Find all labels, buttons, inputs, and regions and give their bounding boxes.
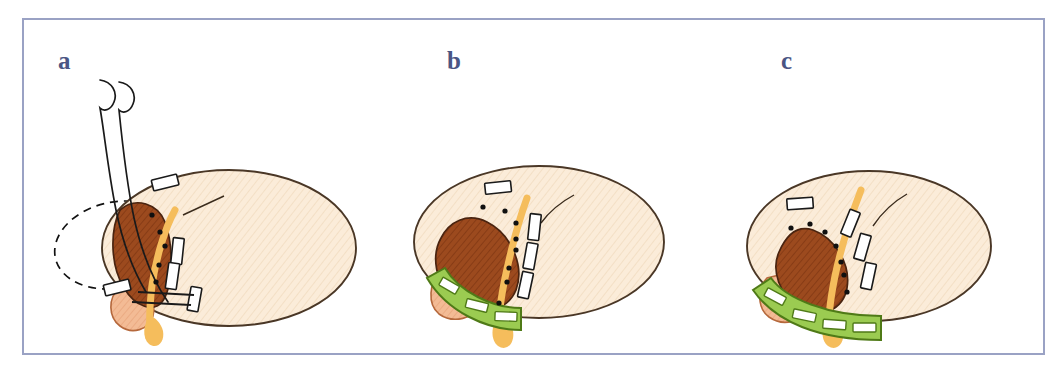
dissection-dot <box>157 229 162 234</box>
stapler-window <box>495 312 517 322</box>
figure-root: a <box>0 0 1062 379</box>
dissection-dot <box>504 279 509 284</box>
dissection-dot <box>807 221 812 226</box>
stapler-window <box>823 319 847 330</box>
dissection-dot <box>833 243 838 248</box>
surgical-clip <box>787 197 814 210</box>
dissection-dot <box>513 247 518 252</box>
dissection-dot <box>496 300 501 305</box>
surgical-clip <box>485 181 512 195</box>
stapler-window <box>853 323 876 332</box>
dissection-dot <box>162 243 167 248</box>
dissection-dot <box>841 272 846 277</box>
figure-border-frame: a <box>22 18 1045 355</box>
panel-b: b <box>369 20 709 357</box>
dissection-dot <box>506 265 511 270</box>
dissection-dot <box>149 212 154 217</box>
dissection-dot <box>502 208 507 213</box>
panel-b-illustration <box>369 20 709 357</box>
panel-a: a <box>24 20 369 357</box>
dissection-dot <box>822 229 827 234</box>
dissection-dot <box>156 262 161 267</box>
panel-c-illustration <box>709 20 1047 357</box>
caption-strip <box>0 362 1062 379</box>
dissection-dot <box>788 225 793 230</box>
dissection-dot <box>513 220 518 225</box>
vessel-bulb <box>144 316 163 346</box>
surgical-clip <box>528 214 542 241</box>
dissection-dot <box>480 204 485 209</box>
dissection-dot <box>838 259 843 264</box>
panel-a-illustration <box>24 20 369 357</box>
dissection-dot <box>153 279 158 284</box>
dissection-dot <box>513 236 518 241</box>
panel-c: c <box>709 20 1047 357</box>
surgical-clip <box>171 238 185 265</box>
dissection-dot <box>844 289 849 294</box>
